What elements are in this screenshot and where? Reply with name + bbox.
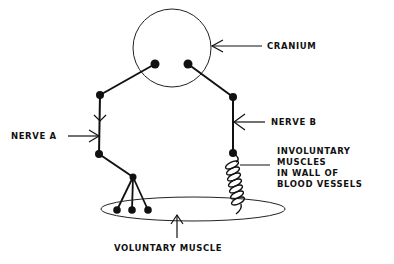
motor-branches — [117, 177, 148, 210]
motor-end-1 — [113, 206, 121, 214]
voluntary-muscle-label: VOLUNTARY MUSCLE — [114, 243, 222, 253]
involuntary-label-line3: IN WALL OF — [277, 168, 339, 178]
nerve-a-arrow — [68, 130, 99, 142]
nerve-a — [99, 64, 155, 177]
motor-end-3 — [144, 206, 152, 214]
cranium-circle — [133, 9, 211, 87]
cranium-arrow — [212, 40, 262, 52]
nerve-b-label: NERVE B — [271, 117, 317, 127]
nerve-b-node-upper — [229, 93, 237, 101]
diagram-canvas: CRANIUM NERVE A VOLUNTARY MUSCLE — [0, 0, 394, 264]
motor-end-2 — [128, 206, 136, 214]
nerve-b-arrow — [234, 114, 265, 130]
nerve-a-node-lower — [95, 150, 103, 158]
involuntary-label-line4: BLOOD VESSELS — [277, 179, 362, 189]
cranium-label: CRANIUM — [267, 41, 316, 51]
cranium-node-left — [151, 60, 160, 69]
nerve-a-node-upper — [96, 91, 104, 99]
nerve-a-label: NERVE A — [11, 131, 57, 141]
involuntary-label-line1: INVOLUNTARY — [277, 146, 351, 156]
nerve-b — [188, 64, 233, 153]
involuntary-label-line2: MUSCLES — [277, 157, 326, 167]
involuntary-muscle-coil — [224, 153, 245, 214]
voluntary-muscle-arrow — [171, 215, 183, 238]
